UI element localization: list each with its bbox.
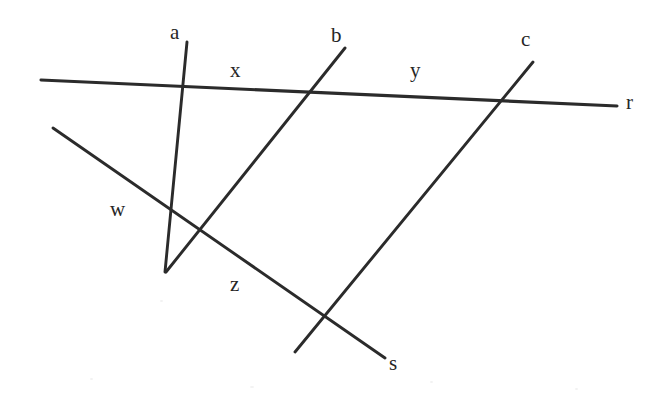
line-label-a: a	[170, 22, 179, 43]
line-label-c: c	[521, 29, 530, 50]
segment-label-y: y	[410, 60, 421, 81]
geometry-diagram: a b c r s x y w z	[0, 0, 663, 397]
segment-label-z: z	[230, 274, 239, 295]
line-label-b: b	[331, 25, 342, 46]
segment-label-x: x	[230, 60, 241, 81]
line-label-s: s	[389, 353, 397, 374]
segment-label-w: w	[110, 199, 125, 220]
geometry-canvas	[0, 0, 663, 397]
canvas-background	[0, 0, 663, 397]
line-label-r: r	[626, 92, 633, 113]
